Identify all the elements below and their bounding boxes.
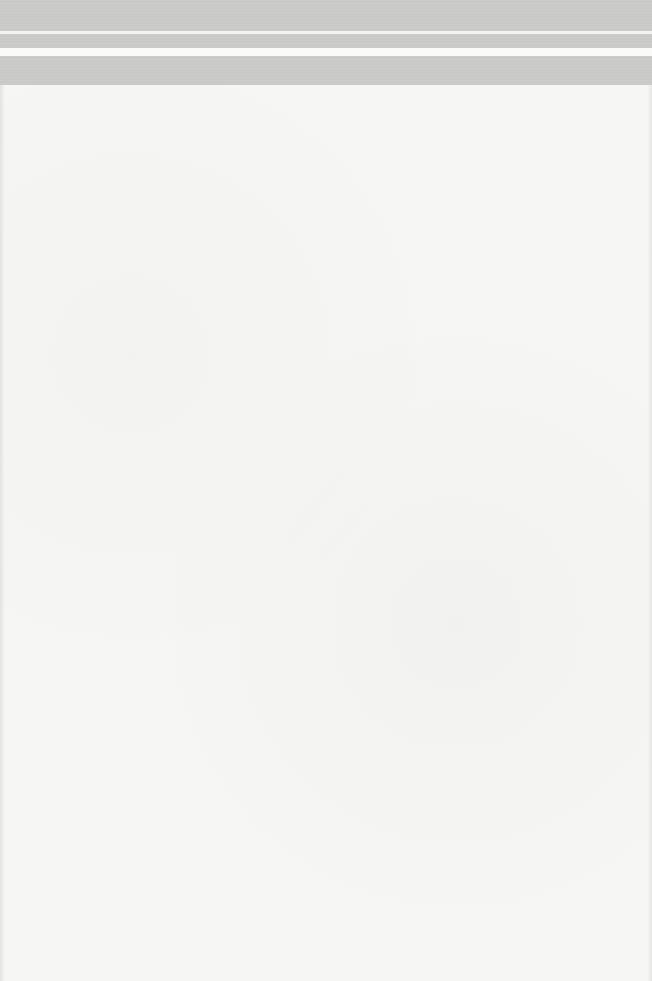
scan-header-band-top — [0, 0, 652, 31]
page-edge-shadow-left — [0, 85, 5, 981]
page-edge-shadow-right — [647, 85, 652, 981]
scan-header-band-bottom — [0, 56, 652, 85]
blank-page-body — [0, 85, 652, 981]
scan-header-band-middle — [0, 34, 652, 48]
band-gap — [0, 48, 652, 56]
